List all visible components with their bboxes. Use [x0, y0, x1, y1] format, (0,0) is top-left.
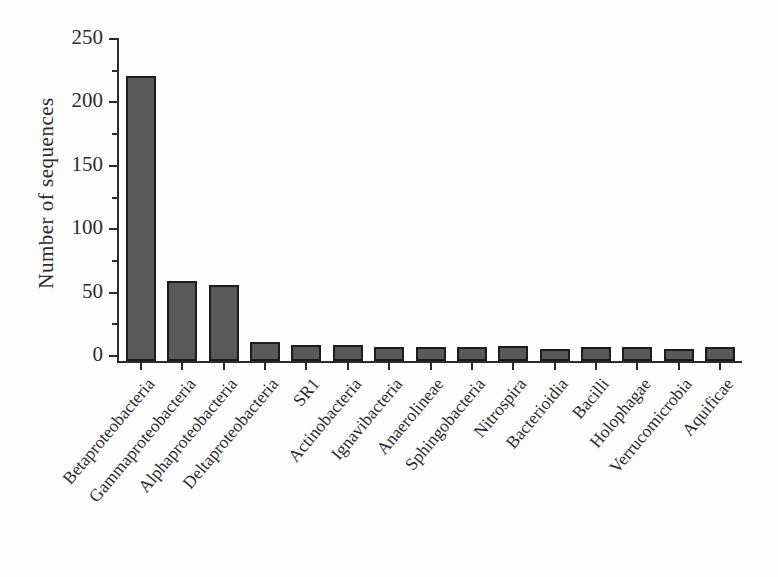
x-axis-tick [719, 363, 721, 370]
x-axis-tick [388, 363, 390, 370]
y-axis-major-tick [109, 228, 117, 230]
bar [291, 345, 321, 361]
bar-chart-figure: Number of sequences 050100150200250Betap… [0, 0, 778, 577]
y-axis-line [117, 38, 119, 363]
y-axis-minor-tick [112, 197, 117, 199]
x-axis-tick [223, 363, 225, 370]
y-axis-major-tick [109, 355, 117, 357]
x-axis-tick [305, 363, 307, 370]
y-axis-tick-label: 0 [53, 342, 103, 367]
x-axis-tick [678, 363, 680, 370]
x-axis-tick [430, 363, 432, 370]
x-axis-tick [181, 363, 183, 370]
x-axis-tick [264, 363, 266, 370]
x-axis-tick [512, 363, 514, 370]
bar [333, 345, 363, 361]
bar [581, 347, 611, 361]
y-axis-minor-tick [112, 260, 117, 262]
bar [167, 281, 197, 361]
bar [126, 76, 156, 361]
y-axis-major-tick [109, 101, 117, 103]
x-axis-tick [140, 363, 142, 370]
bar [374, 347, 404, 361]
x-axis-tick [347, 363, 349, 370]
y-axis-tick-label: 100 [53, 215, 103, 240]
y-axis-minor-tick [112, 323, 117, 325]
bar [498, 346, 528, 361]
bar [705, 347, 735, 361]
bar [416, 347, 446, 361]
x-axis-tick [595, 363, 597, 370]
bar [664, 349, 694, 361]
y-axis-tick-label: 150 [53, 152, 103, 177]
y-axis-tick-label: 200 [53, 89, 103, 114]
x-axis-tick [554, 363, 556, 370]
y-axis-major-tick [109, 165, 117, 167]
y-axis-minor-tick [112, 70, 117, 72]
y-axis-major-tick [109, 38, 117, 40]
y-axis-major-tick [109, 292, 117, 294]
y-axis-tick-label: 250 [53, 25, 103, 50]
x-axis-tick [471, 363, 473, 370]
y-axis-tick-label: 50 [53, 279, 103, 304]
bar [457, 347, 487, 361]
bar [540, 349, 570, 361]
bar [250, 342, 280, 361]
bar [622, 347, 652, 361]
bar [209, 285, 239, 361]
y-axis-minor-tick [112, 133, 117, 135]
x-axis-tick [636, 363, 638, 370]
x-category-label: SR1 [289, 374, 324, 411]
y-axis-title: Number of sequences [34, 97, 59, 288]
